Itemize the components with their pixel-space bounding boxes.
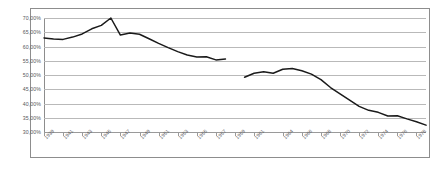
y-axis-tick-label: 55,00% xyxy=(23,58,41,64)
data-line-segment-2 xyxy=(245,68,426,125)
y-axis-tick-label: 50,00% xyxy=(23,72,41,78)
y-axis-tick-label: 45,00% xyxy=(23,86,41,92)
y-axis-tick-label: 30,00% xyxy=(23,129,41,135)
data-series-group xyxy=(44,18,426,132)
y-axis-tick-label: 65,00% xyxy=(23,29,41,35)
y-axis-labels: 70,00%65,00%60,00%55,00%50,00%45,00%40,0… xyxy=(0,18,41,132)
data-line-segment-1 xyxy=(44,18,225,60)
y-axis-tick-label: 40,00% xyxy=(23,101,41,107)
line-chart: 70,00%65,00%60,00%55,00%50,00%45,00%40,0… xyxy=(0,0,442,172)
y-axis-tick-label: 60,00% xyxy=(23,44,41,50)
y-axis-tick-label: 70,00% xyxy=(23,15,41,21)
plot-area xyxy=(44,18,426,132)
x-axis-labels: 1939194119431945194719491951195319551957… xyxy=(44,136,426,166)
y-axis-tick-label: 35,00% xyxy=(23,115,41,121)
